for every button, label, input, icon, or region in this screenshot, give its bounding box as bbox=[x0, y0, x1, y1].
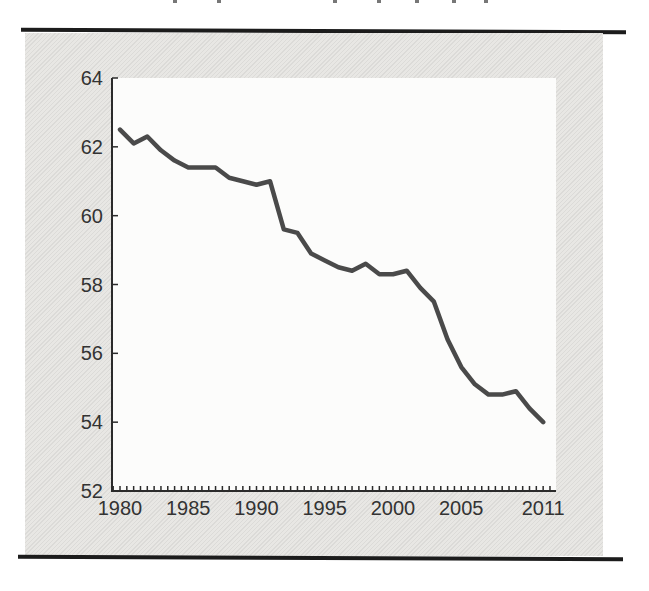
y-tick-label-62: 62 bbox=[81, 136, 103, 158]
x-tick-label-1985: 1985 bbox=[166, 497, 211, 519]
y-tick-label-56: 56 bbox=[81, 342, 103, 364]
x-tick-label-1980: 1980 bbox=[98, 497, 143, 519]
page: 5254565860626419801985199019952000200520… bbox=[0, 0, 649, 591]
x-tick-label-1995: 1995 bbox=[303, 497, 348, 519]
y-tick-label-58: 58 bbox=[81, 274, 103, 296]
plot-area bbox=[112, 78, 556, 491]
y-tick-label-54: 54 bbox=[81, 411, 103, 433]
line-chart: 5254565860626419801985199019952000200520… bbox=[0, 0, 649, 591]
x-tick-label-2000: 2000 bbox=[371, 497, 416, 519]
x-tick-label-2005: 2005 bbox=[439, 497, 484, 519]
x-tick-label-2011: 2011 bbox=[522, 497, 565, 519]
y-tick-label-60: 60 bbox=[81, 205, 103, 227]
x-tick-label-1990: 1990 bbox=[234, 497, 279, 519]
y-tick-label-64: 64 bbox=[81, 67, 103, 89]
